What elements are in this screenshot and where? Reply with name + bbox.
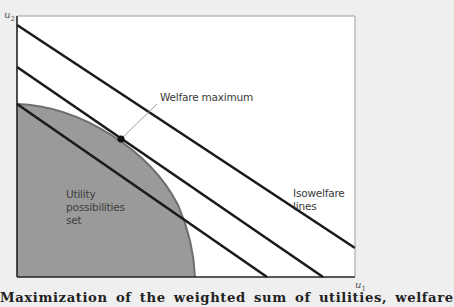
ups-label-line2: possibilities: [66, 201, 125, 214]
welfare-maximum-label: Welfare maximum: [160, 91, 253, 104]
y-axis-label: u2: [4, 9, 15, 23]
isowelfare-lines-label: Isowelfare lines: [293, 187, 345, 213]
isowelfare-label-line2: lines: [293, 200, 345, 213]
utility-possibilities-label: Utility possibilities set: [66, 188, 125, 227]
figure-caption: Maximization of the weighted sum of util…: [0, 290, 420, 305]
isowelfare-label-line1: Isowelfare: [293, 187, 345, 200]
ups-label-line3: set: [66, 214, 125, 227]
welfare-maximum-point: [117, 135, 124, 142]
ups-label-line1: Utility: [66, 188, 125, 201]
y-axis-label-sub: 2: [10, 15, 14, 23]
welfare-maximum-text: Welfare maximum: [160, 91, 253, 103]
